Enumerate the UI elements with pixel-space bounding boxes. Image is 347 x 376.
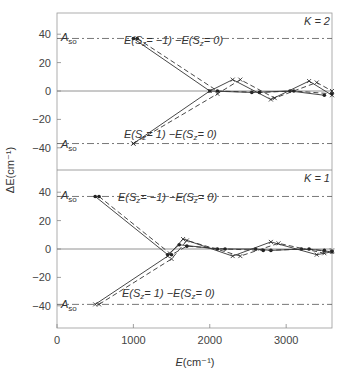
y-tick-label: 40 — [39, 186, 51, 198]
aso-label: Aso — [60, 298, 77, 313]
data-point — [238, 78, 242, 82]
x-tick-label: 3000 — [274, 334, 298, 346]
y-tick-label: 0 — [45, 243, 51, 255]
panel-top — [57, 34, 334, 148]
panel-title-top: K = 2 — [304, 15, 330, 27]
data-point — [323, 93, 327, 97]
series-line — [133, 38, 324, 95]
plot-frame — [57, 13, 332, 328]
data-point — [269, 98, 273, 102]
annotation-minus: E(Sz= −1) −E(Sz= 0) — [124, 34, 223, 48]
data-point — [181, 237, 185, 241]
data-point — [223, 247, 227, 251]
aso-label: Aso — [60, 31, 77, 46]
x-tick-label: 2000 — [198, 334, 222, 346]
data-point — [307, 79, 311, 83]
y-tick-label: −40 — [32, 142, 51, 154]
panel-title-bottom: K = 1 — [304, 172, 330, 184]
chart: −40−2002040AsoAsoK = 2E(Sz= −1) −E(Sz= 0… — [0, 0, 347, 376]
x-tick-label: 0 — [54, 334, 60, 346]
annotation-minus: E(Sz= −1) −E(Sz= 0) — [118, 191, 217, 205]
y-tick-label: 20 — [39, 215, 51, 227]
data-point — [93, 195, 97, 199]
x-tick-label: 1000 — [121, 334, 145, 346]
annotation-plus: E(Sz= 1) −E(Sz= 0) — [124, 128, 217, 142]
annotation-plus: E(Sz= 1) −E(Sz= 0) — [122, 287, 215, 301]
data-point — [170, 257, 174, 261]
y-tick-label: −20 — [32, 113, 51, 125]
y-tick-label: 0 — [45, 85, 51, 97]
data-point — [315, 80, 319, 84]
y-tick-label: 40 — [39, 28, 51, 40]
series-line — [99, 196, 332, 254]
y-axis-label: ΔE(cm⁻¹) — [4, 147, 16, 193]
data-point — [231, 254, 235, 258]
data-point — [231, 78, 235, 82]
data-point — [97, 195, 101, 199]
x-axis-label: E(cm⁻¹) — [176, 356, 215, 368]
y-tick-label: 20 — [39, 57, 51, 69]
aso-label: Aso — [60, 189, 77, 204]
aso-label: Aso — [60, 138, 77, 153]
y-tick-label: −40 — [32, 300, 51, 312]
data-point — [185, 244, 189, 248]
series-line — [137, 38, 332, 93]
y-tick-label: −20 — [32, 271, 51, 283]
